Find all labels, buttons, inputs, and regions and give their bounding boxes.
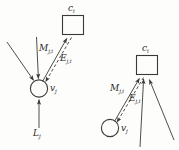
right-node-label: vj <box>121 124 128 134</box>
right-factor-label: ci <box>142 44 149 54</box>
left-evidence-label: Ej,i <box>60 54 71 64</box>
left-incoming-arrow-1 <box>7 42 34 80</box>
right-incoming-arrow-1 <box>140 79 144 147</box>
right-variable-node <box>101 119 118 136</box>
left-input-label: Lj <box>33 129 41 139</box>
right-evidence-label: Ej,i <box>129 94 140 104</box>
right-incoming-arrow-2 <box>149 80 174 140</box>
left-panel-group <box>7 16 84 129</box>
left-factor-box <box>63 16 84 35</box>
figure-canvas: ci Mj,i Ej,i vj Lj ci Mj,i Ej,i vj <box>0 0 179 150</box>
left-message-label: Mj,i <box>39 44 53 54</box>
right-factor-box <box>137 56 158 75</box>
right-message-label: Mj,i <box>110 84 124 94</box>
left-variable-node <box>30 80 47 97</box>
left-factor-label: ci <box>68 4 75 14</box>
left-node-label: vj <box>50 84 57 94</box>
diagram-svg <box>0 0 179 150</box>
